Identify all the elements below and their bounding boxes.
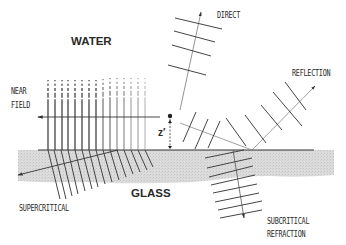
subcritical-label-line1: SUBCRITICAL bbox=[267, 218, 309, 226]
reflection-label: REFLECTION bbox=[292, 70, 330, 78]
near-field-wavefronts bbox=[48, 78, 145, 150]
supercritical-label: SUPERCRITICAL bbox=[19, 205, 69, 213]
glass-label: GLASS bbox=[131, 188, 171, 200]
direct-wave bbox=[168, 12, 222, 110]
near-field-label-line2: FIELD bbox=[11, 102, 30, 110]
subcritical-label-line2: REFRACTION bbox=[267, 231, 305, 239]
emitter-dot bbox=[168, 114, 172, 118]
water-label: WATER bbox=[71, 36, 112, 48]
reflection-wave bbox=[180, 82, 315, 150]
z-prime-label: z′ bbox=[158, 128, 165, 138]
near-field-label-line1: NEAR bbox=[11, 88, 26, 96]
direct-label: DIRECT bbox=[217, 12, 240, 20]
